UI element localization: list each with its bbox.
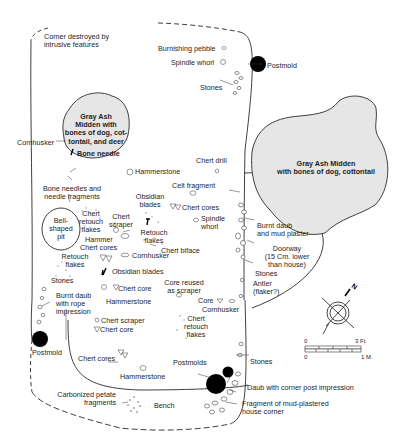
label-hammerstone-mid: Hammerstone (106, 298, 151, 306)
core-symbol (217, 299, 223, 303)
label-chert-drill: Chert drill (196, 157, 227, 165)
label-corner-destroyed: Corner destroyed by intrusive features (44, 33, 109, 49)
label-core-reused: Core reused as scraper (160, 279, 208, 295)
scale-label-bottom-left: 0 (304, 353, 307, 361)
spindle-whorl-mid-symbol (194, 218, 199, 222)
label-cornhusker-mid: Cornhusker (132, 252, 169, 260)
hammerstone-low-symbol (140, 366, 146, 371)
stones-east-wall (205, 72, 247, 415)
burnishing-pebble-symbol (222, 47, 226, 50)
scale-label-bottom-right: 1 M. (361, 353, 373, 361)
chert-cores-west-symbol (100, 255, 112, 262)
label-hammerstone-top: Hammerstone (135, 168, 180, 176)
label-fragment-mud-plastered: Fragment of mud-plastered house corner (242, 400, 329, 416)
label-chert-cores-top: Chert cores (182, 204, 219, 212)
chert-drill-symbol (215, 169, 218, 173)
postmold-small (223, 367, 234, 378)
label-burnt-daub-rope: Burnt daub with rope impression (56, 292, 91, 317)
label-spindle-whorl-mid: Spindle whorl (201, 215, 225, 231)
label-stones-west: Stones (51, 277, 73, 285)
spindle-whorl-symbol (221, 60, 226, 65)
chert-scraper-low-symbol (95, 318, 99, 322)
label-bone-needles-fragments: Bone needles and needle fragments (42, 185, 102, 201)
label-postmold-west: Postmold (32, 349, 62, 357)
label-bone-needle: Bone needle (77, 150, 120, 158)
cornhusker-mid-symbol (121, 253, 129, 257)
label-chert-cores-low: Chert cores (78, 355, 115, 363)
hammer-symbol (121, 234, 129, 239)
label-stones-east: Stones (250, 358, 272, 366)
label-hammerstone-low: Hammerstone (120, 373, 165, 381)
label-celt-fragment: Celt fragment (172, 182, 215, 190)
label-burnt-daub-mud-plaster: Burnt daub and mud plaster (257, 222, 309, 238)
hammerstone-mid-symbol (102, 285, 107, 290)
scale-label-top-left: 0 (304, 337, 307, 345)
label-chert-core-mid: Chert core (118, 285, 152, 293)
label-chert-retouch-flakes-west: Chert retouch flakes (76, 210, 106, 235)
label-retouch-flakes-west: Retouch flakes (58, 253, 92, 269)
label-chert-cores-west: Chert cores (80, 244, 117, 252)
label-spindle-whorl-top: Spindle whorl (171, 59, 214, 67)
label-bell-shaped-pit: Bell- shaped pit (46, 217, 76, 242)
label-carbonized-petate: Carbonized petate fragments (48, 391, 116, 407)
label-chert-retouch-flakes-east: Chert retouch flakes (181, 315, 211, 340)
label-midden-east: Gray Ash Midden with bones of dog, cotto… (276, 160, 376, 176)
north-arrow (322, 289, 354, 334)
north-label: N (350, 282, 358, 291)
label-burnishing-pebble: Burnishing pebble (158, 45, 216, 53)
label-doorway: Doorway (15 Cm. lower than house) (257, 245, 317, 270)
cornhusker-east-symbol (229, 300, 235, 303)
label-obsidian-blades-mid: Obsidian blades (112, 268, 164, 276)
label-antler: Antler (flaker?) (253, 280, 279, 296)
label-retouch-flakes-mid: Retouch flakes (136, 229, 172, 245)
label-chert-scraper-low: Chert scraper (101, 317, 145, 325)
label-obsidian-blades-top: Obsidian blades (128, 193, 172, 209)
label-stones-door: Stones (255, 270, 277, 278)
hammerstone-symbol (127, 169, 133, 175)
scale-label-top-right: 3 Ft. (355, 337, 367, 345)
label-chert-core-low: Chert core (100, 326, 134, 334)
label-cornhusker-east: Cornhusker (202, 306, 239, 314)
label-cornhusker-west: Cornhusker (17, 139, 54, 147)
label-postmolds: Postmolds (173, 359, 207, 367)
label-chert-scraper-top: Chert scraper (106, 213, 136, 229)
postmold-west (32, 331, 48, 347)
label-core: Core (198, 297, 214, 305)
chert-cores-low-symbol (118, 350, 128, 358)
label-stones-top: Stones (200, 84, 222, 92)
label-postmold-top: Postmold (267, 62, 297, 70)
label-bench: Bench (154, 402, 174, 410)
scale-bar (305, 346, 361, 352)
label-daub-corner-post: Daub with corner post impression (247, 384, 354, 392)
label-midden-west: Gray Ash Midden with bones of dog, cot- … (62, 113, 130, 146)
stones-west-wall (37, 287, 46, 324)
celt-fragment-symbol (190, 191, 196, 195)
